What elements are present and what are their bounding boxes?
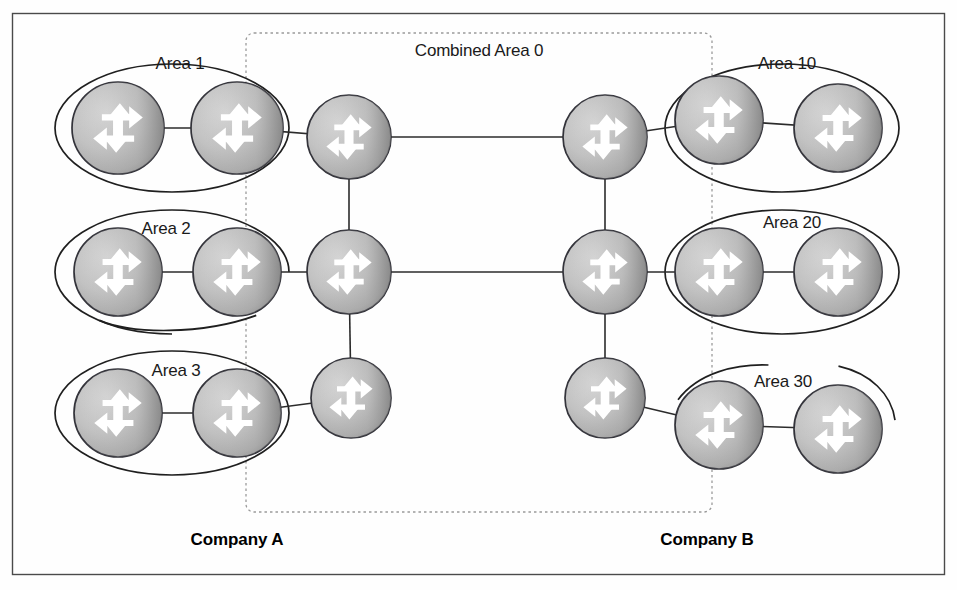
router-node[interactable] [74,369,162,457]
diagram-canvas: Combined Area 0 Area 1Area 2Area 3Area 1… [0,0,957,590]
router-node[interactable] [565,358,645,438]
area-label-area-3: Area 3 [152,361,201,380]
network-diagram: Combined Area 0 Area 1Area 2Area 3Area 1… [0,0,957,590]
area-label-area-20: Area 20 [763,213,821,232]
router-node[interactable] [675,228,763,316]
company-label-company-a: Company A [191,530,284,549]
router-node[interactable] [311,358,391,438]
router-node[interactable] [307,95,391,179]
combined-area-0-label: Combined Area 0 [415,41,543,60]
router-node[interactable] [193,369,281,457]
routers-group [72,76,882,473]
router-node[interactable] [193,228,281,316]
router-node[interactable] [794,228,882,316]
company-label-company-b: Company B [660,530,754,549]
area-label-area-2: Area 2 [142,219,191,238]
router-node[interactable] [563,95,647,179]
router-node[interactable] [675,76,763,164]
router-node[interactable] [675,381,763,469]
area-label-area-10: Area 10 [758,54,816,73]
router-node[interactable] [307,230,391,314]
company-labels-group: Company ACompany B [191,530,754,549]
router-node[interactable] [74,228,162,316]
area-label-area-1: Area 1 [156,54,205,73]
router-node[interactable] [794,385,882,473]
router-node[interactable] [563,230,647,314]
router-node[interactable] [794,84,882,172]
router-node[interactable] [191,82,283,174]
router-node[interactable] [72,82,164,174]
area-label-area-30: Area 30 [754,372,812,391]
